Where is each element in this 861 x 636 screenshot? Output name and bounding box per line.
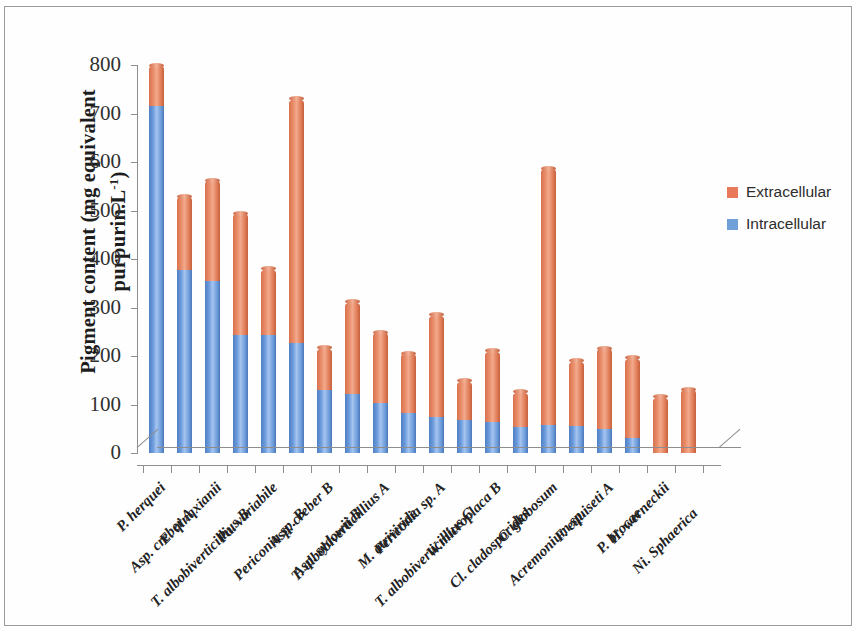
x-axis-label: C. globosum (337, 479, 561, 636)
floor-back-edge (157, 447, 741, 448)
bar-column[interactable] (177, 65, 192, 453)
x-axis-label: T. albobiverticillius A (169, 479, 393, 636)
bar-column[interactable] (205, 65, 220, 453)
bar-column[interactable] (457, 65, 472, 453)
x-axis-label: Periconia sp. A (225, 479, 449, 636)
bar-column[interactable] (401, 65, 416, 453)
bar-column[interactable] (149, 65, 164, 453)
plot-area (137, 61, 697, 453)
bar-segment-intracellular[interactable] (233, 335, 248, 453)
x-axis-label: Acremonium sp. (365, 505, 589, 636)
y-axis-tick-label: 600 (57, 151, 121, 172)
bar-segment-intracellular[interactable] (289, 343, 304, 453)
y-axis-tick-label: 300 (57, 297, 121, 318)
y-axis-tick-label: 200 (57, 345, 121, 366)
x-axis-tick (479, 465, 480, 473)
x-axis-tick (647, 465, 648, 473)
bar-column[interactable] (289, 65, 304, 453)
legend: Extracellular Intracellular (727, 183, 831, 247)
x-axis-tick (199, 465, 200, 473)
x-axis-tick (227, 465, 228, 473)
bar-segment-extracellular[interactable] (261, 269, 276, 335)
bar-top-cap (401, 351, 416, 356)
legend-label-extracellular: Extracellular (746, 183, 831, 201)
x-axis-tick (619, 465, 620, 473)
legend-item-intracellular[interactable]: Intracellular (727, 215, 831, 233)
bar-column[interactable] (625, 65, 640, 453)
x-axis-tick (703, 465, 704, 473)
bar-segment-extracellular[interactable] (373, 332, 388, 403)
bar-segment-extracellular[interactable] (485, 351, 500, 422)
bar-segment-extracellular[interactable] (205, 180, 220, 280)
bar-column[interactable] (597, 65, 612, 453)
bar-column[interactable] (513, 65, 528, 453)
bar-column[interactable] (485, 65, 500, 453)
bar-segment-extracellular[interactable] (625, 358, 640, 439)
x-axis-label: M. atriviride (197, 505, 421, 636)
y-axis-tick-label: 800 (57, 54, 121, 75)
bar-segment-extracellular[interactable] (653, 397, 668, 453)
bar-segment-intracellular[interactable] (205, 281, 220, 453)
bar-column[interactable] (233, 65, 248, 453)
bar-segment-extracellular[interactable] (401, 353, 416, 413)
y-axis-tick-label: 400 (57, 248, 121, 269)
bar-segment-intracellular[interactable] (373, 403, 388, 453)
x-axis-label: Ni. Sphaerica (477, 505, 701, 636)
bar-segment-extracellular[interactable] (681, 389, 696, 453)
legend-item-extracellular[interactable]: Extracellular (727, 183, 831, 201)
bar-column[interactable] (541, 65, 556, 453)
bar-segment-extracellular[interactable] (429, 315, 444, 417)
bar-segment-intracellular[interactable] (149, 106, 164, 453)
bar-column[interactable] (317, 65, 332, 453)
y-axis-title-superscript: -1 (106, 178, 121, 189)
bar-column[interactable] (569, 65, 584, 453)
bar-segment-intracellular[interactable] (261, 335, 276, 453)
y-axis-title: Pigment content (mg equivalent purpurin.… (75, 21, 132, 441)
bar-segment-intracellular[interactable] (317, 390, 332, 453)
bar-segment-extracellular[interactable] (457, 381, 472, 420)
bar-segment-extracellular[interactable] (513, 392, 528, 427)
x-axis-label: P. herquei (0, 479, 169, 636)
bar-segment-extracellular[interactable] (177, 196, 192, 270)
floor-right-edge (719, 447, 741, 467)
bar-segment-extracellular[interactable] (541, 168, 556, 425)
bar-column[interactable] (345, 65, 360, 453)
x-axis-tick (507, 465, 508, 473)
x-axis-tick (395, 465, 396, 473)
bar-column[interactable] (373, 65, 388, 453)
x-axis-label: T. albobiverticillius B (29, 505, 253, 636)
legend-swatch-icon-extracellular (727, 187, 738, 198)
bar-top-cap (681, 387, 696, 392)
bar-top-cap (205, 178, 220, 183)
x-axis-label: T. albobiverticillius C (253, 505, 477, 636)
bar-segment-intracellular[interactable] (177, 270, 192, 453)
bar-segment-extracellular[interactable] (345, 302, 360, 394)
x-axis-label: Asp. sydowii B (141, 505, 365, 636)
bar-segment-extracellular[interactable] (569, 361, 584, 426)
bar-segment-extracellular[interactable] (597, 348, 612, 429)
bar-segment-extracellular[interactable] (289, 99, 304, 343)
x-axis-tick (535, 465, 536, 473)
x-axis-label: Asp. creber A (0, 505, 197, 636)
bar-column[interactable] (653, 65, 668, 453)
bar-segment-extracellular[interactable] (233, 213, 248, 335)
x-axis-label: W.microplaca B (281, 479, 505, 636)
bar-segment-intracellular[interactable] (345, 394, 360, 453)
bar-top-cap (149, 63, 164, 68)
y-axis-tick-label: 0 (57, 442, 121, 463)
legend-label-intracellular: Intracellular (746, 215, 826, 233)
x-axis-tick (311, 465, 312, 473)
x-axis-tick (423, 465, 424, 473)
bar-column[interactable] (429, 65, 444, 453)
bar-segment-extracellular[interactable] (317, 348, 332, 390)
floor-front-edge (137, 465, 721, 466)
x-axis-tick (563, 465, 564, 473)
x-axis-label: Asp. creber B (113, 479, 337, 636)
bar-column[interactable] (681, 65, 696, 453)
bar-top-cap (233, 211, 248, 216)
x-axis-label: Periconia sp. B (85, 505, 309, 636)
x-axis-label: Cl. cladosporides (309, 505, 533, 636)
bar-top-cap (541, 166, 556, 171)
bar-column[interactable] (261, 65, 276, 453)
bar-segment-extracellular[interactable] (149, 65, 164, 106)
